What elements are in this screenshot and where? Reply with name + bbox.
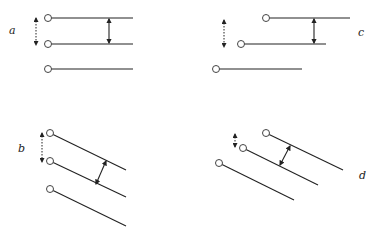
origin-circle-icon	[240, 145, 247, 152]
origin-circle-icon	[263, 130, 270, 137]
panel-label: d	[359, 169, 366, 182]
origin-circle-icon	[45, 15, 52, 22]
ray-line	[50, 161, 126, 197]
origin-circle-icon	[216, 160, 223, 167]
spacing-arrow-icon	[280, 146, 290, 165]
ray-line	[50, 189, 126, 226]
panel-c: c	[213, 15, 365, 73]
parallel-lines-diagram: acbd	[0, 0, 381, 229]
origin-circle-icon	[213, 66, 220, 73]
origin-circle-icon	[47, 158, 54, 165]
ray-line	[50, 133, 126, 170]
ray-line	[219, 163, 294, 200]
panel-label: a	[9, 24, 16, 37]
origin-circle-icon	[47, 130, 54, 137]
ray-line	[243, 148, 318, 185]
panel-label: c	[358, 26, 364, 39]
panel-label: b	[18, 142, 25, 155]
origin-circle-icon	[45, 66, 52, 73]
origin-circle-icon	[263, 15, 270, 22]
origin-circle-icon	[47, 186, 54, 193]
spacing-arrow-icon	[96, 161, 106, 184]
origin-circle-icon	[238, 41, 245, 48]
panel-d: d	[216, 130, 367, 201]
panel-b: b	[18, 130, 126, 227]
panel-a: a	[9, 15, 133, 73]
origin-circle-icon	[45, 41, 52, 48]
